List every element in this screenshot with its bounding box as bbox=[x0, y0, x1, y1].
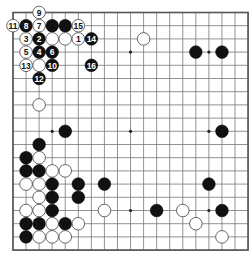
stone-white[interactable] bbox=[72, 217, 85, 230]
stone-black[interactable]: 8 bbox=[20, 19, 33, 32]
stone-black[interactable] bbox=[46, 19, 59, 32]
go-board-canvas[interactable]: 91187153211454613101612 bbox=[0, 0, 251, 264]
stone-white[interactable]: 5 bbox=[20, 46, 33, 59]
stone-white[interactable] bbox=[190, 217, 203, 230]
stone-white[interactable] bbox=[33, 99, 46, 112]
stone-white[interactable]: 7 bbox=[33, 19, 46, 32]
stone-black[interactable] bbox=[59, 217, 72, 230]
stone-white[interactable] bbox=[216, 231, 229, 244]
stone-black[interactable] bbox=[72, 191, 85, 204]
stone-white[interactable] bbox=[33, 151, 46, 164]
stone-white[interactable] bbox=[46, 33, 59, 46]
move-number: 1 bbox=[76, 34, 81, 44]
stone-black[interactable] bbox=[20, 165, 33, 178]
stone-white[interactable]: 3 bbox=[20, 33, 33, 46]
stone-black[interactable] bbox=[46, 191, 59, 204]
stone-black[interactable] bbox=[72, 178, 85, 191]
black-stone-icon bbox=[20, 165, 33, 178]
stone-black[interactable] bbox=[33, 165, 46, 178]
star-point bbox=[207, 209, 210, 212]
black-stone-icon bbox=[72, 178, 85, 191]
black-stone-icon bbox=[20, 231, 33, 244]
stone-black[interactable] bbox=[33, 138, 46, 151]
stone-black[interactable] bbox=[98, 178, 111, 191]
star-point bbox=[51, 130, 54, 133]
star-point bbox=[207, 130, 210, 133]
stone-black[interactable] bbox=[216, 46, 229, 59]
move-number: 3 bbox=[24, 34, 29, 44]
stone-white[interactable] bbox=[46, 165, 59, 178]
move-number: 10 bbox=[47, 61, 57, 71]
black-stone-icon bbox=[98, 178, 111, 191]
stone-white[interactable] bbox=[46, 231, 59, 244]
stone-black[interactable] bbox=[59, 125, 72, 138]
stone-black[interactable]: 4 bbox=[33, 46, 46, 59]
stone-black[interactable] bbox=[150, 204, 163, 217]
white-stone-icon bbox=[33, 99, 46, 112]
stone-black[interactable] bbox=[46, 178, 59, 191]
stone-black[interactable] bbox=[216, 204, 229, 217]
move-number: 5 bbox=[24, 47, 29, 57]
stone-black[interactable] bbox=[20, 151, 33, 164]
black-stone-icon bbox=[59, 125, 72, 138]
stone-white[interactable] bbox=[59, 231, 72, 244]
white-stone-icon bbox=[33, 59, 46, 72]
white-stone-icon bbox=[46, 217, 59, 230]
white-stone-icon bbox=[98, 204, 111, 217]
move-number: 7 bbox=[37, 21, 42, 31]
white-stone-icon bbox=[176, 204, 189, 217]
stone-white[interactable] bbox=[59, 165, 72, 178]
star-point bbox=[129, 130, 132, 133]
black-stone-icon bbox=[33, 138, 46, 151]
stone-white[interactable] bbox=[137, 33, 150, 46]
stone-black[interactable]: 10 bbox=[46, 59, 59, 72]
stone-black[interactable] bbox=[190, 46, 203, 59]
stone-black[interactable] bbox=[216, 125, 229, 138]
stone-black[interactable]: 2 bbox=[33, 33, 46, 46]
stone-black[interactable] bbox=[33, 217, 46, 230]
white-stone-icon bbox=[59, 33, 72, 46]
stone-black[interactable]: 16 bbox=[85, 59, 98, 72]
stone-black[interactable]: 6 bbox=[46, 46, 59, 59]
black-stone-icon bbox=[20, 151, 33, 164]
stone-white[interactable]: 13 bbox=[20, 59, 33, 72]
stone-white[interactable] bbox=[20, 178, 33, 191]
stone-white[interactable]: 15 bbox=[72, 19, 85, 32]
white-stone-icon bbox=[33, 204, 46, 217]
go-board[interactable]: 91187153211454613101612 bbox=[0, 0, 251, 264]
stone-black[interactable]: 14 bbox=[85, 33, 98, 46]
stone-black[interactable] bbox=[59, 19, 72, 32]
stone-white[interactable] bbox=[46, 217, 59, 230]
stone-white[interactable] bbox=[20, 204, 33, 217]
stone-black[interactable]: 12 bbox=[33, 72, 46, 85]
star-point bbox=[129, 209, 132, 212]
star-point bbox=[129, 51, 132, 54]
stone-black[interactable] bbox=[46, 204, 59, 217]
stone-white[interactable] bbox=[98, 204, 111, 217]
black-stone-icon bbox=[216, 204, 229, 217]
white-stone-icon bbox=[20, 178, 33, 191]
move-number: 11 bbox=[9, 21, 18, 31]
stone-white[interactable] bbox=[33, 59, 46, 72]
stone-white[interactable] bbox=[176, 204, 189, 217]
stone-white[interactable] bbox=[33, 178, 46, 191]
stone-white[interactable] bbox=[59, 33, 72, 46]
white-stone-icon bbox=[33, 191, 46, 204]
move-number: 15 bbox=[74, 21, 84, 31]
black-stone-icon bbox=[46, 19, 59, 32]
black-stone-icon bbox=[33, 217, 46, 230]
stone-white[interactable]: 9 bbox=[33, 6, 46, 19]
stone-black[interactable] bbox=[20, 231, 33, 244]
stone-white[interactable] bbox=[33, 204, 46, 217]
stone-black[interactable] bbox=[203, 178, 216, 191]
black-stone-icon bbox=[59, 217, 72, 230]
stone-white[interactable] bbox=[33, 191, 46, 204]
white-stone-icon bbox=[137, 33, 150, 46]
stone-white[interactable] bbox=[33, 231, 46, 244]
black-stone-icon bbox=[46, 191, 59, 204]
stone-white[interactable]: 11 bbox=[7, 19, 20, 32]
move-number: 16 bbox=[87, 61, 97, 71]
move-number: 6 bbox=[50, 47, 55, 57]
stone-white[interactable]: 1 bbox=[72, 33, 85, 46]
stone-black[interactable] bbox=[20, 217, 33, 230]
